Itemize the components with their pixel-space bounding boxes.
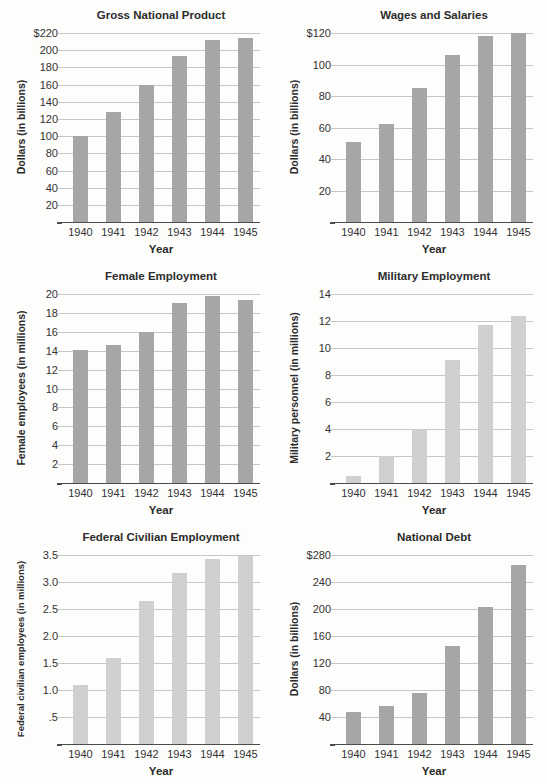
y-tick-label: 240 xyxy=(313,576,331,589)
gridline xyxy=(331,690,533,691)
chart-gross-national-product: Gross National Product Dollars (in billi… xyxy=(0,0,273,261)
gridline xyxy=(58,102,260,103)
gridline xyxy=(331,402,533,403)
gridline xyxy=(58,188,260,189)
y-tick-label: 60 xyxy=(319,122,331,135)
bar-1943 xyxy=(445,55,460,222)
bar-1941 xyxy=(379,456,394,483)
x-tick-label: 1945 xyxy=(226,487,266,499)
gridline xyxy=(58,464,260,465)
y-tick-label: 120 xyxy=(313,657,331,670)
x-axis-ticks: 194019411942194319441945 xyxy=(335,226,533,240)
bar-1940 xyxy=(73,685,88,744)
bar-1943 xyxy=(172,303,187,483)
y-axis-ticks: 1412108642 xyxy=(283,294,331,483)
x-tick-label: 1945 xyxy=(499,487,539,499)
x-axis-ticks: 194019411942194319441945 xyxy=(335,748,533,762)
gridline xyxy=(58,67,260,68)
plot-area xyxy=(62,294,260,484)
bar-1941 xyxy=(379,124,394,222)
bar-1945 xyxy=(511,316,526,483)
gridline xyxy=(331,321,533,322)
gridline xyxy=(58,294,260,295)
bar-1941 xyxy=(106,112,121,222)
bar-1940 xyxy=(346,712,361,744)
gridline xyxy=(331,375,533,376)
y-tick-label: 3.5 xyxy=(43,549,58,562)
y-tick-label: 160 xyxy=(313,630,331,643)
chart-title: Wages and Salaries xyxy=(335,9,533,21)
gridline xyxy=(58,609,260,610)
gridline xyxy=(58,582,260,583)
x-axis-label: Year xyxy=(335,243,533,255)
gridline xyxy=(58,370,260,371)
y-tick-label: 160 xyxy=(40,79,58,92)
bar-1940 xyxy=(346,142,361,222)
bar-1944 xyxy=(205,296,220,483)
y-axis-ticks: $22020018016014012010080604020 xyxy=(10,33,58,222)
bar-1942 xyxy=(412,88,427,222)
gridline xyxy=(58,389,260,390)
gridline xyxy=(58,50,260,51)
y-tick-label: 18 xyxy=(46,307,58,320)
gridline xyxy=(331,191,533,192)
y-axis-ticks: 3.53.02.52.01.51.0.5 xyxy=(10,555,58,744)
chart-title: Female Employment xyxy=(62,270,260,282)
gridline xyxy=(58,136,260,137)
scanned-chart-page: Gross National Product Dollars (in billi… xyxy=(0,0,547,784)
y-tick-label: 14 xyxy=(319,288,331,301)
bar-1942 xyxy=(139,601,154,744)
gridline xyxy=(331,636,533,637)
gridline xyxy=(331,159,533,160)
y-tick-label: $220 xyxy=(34,27,58,40)
plot-area xyxy=(62,33,260,223)
gridline xyxy=(331,65,533,66)
y-tick-label: 80 xyxy=(319,90,331,103)
chart-title: National Debt xyxy=(335,531,533,543)
bar-1944 xyxy=(478,607,493,744)
y-tick-label: 180 xyxy=(40,61,58,74)
gridline xyxy=(58,205,260,206)
gridline xyxy=(58,351,260,352)
y-tick-label: 10 xyxy=(46,383,58,396)
bar-1944 xyxy=(205,40,220,222)
bar-1943 xyxy=(172,573,187,744)
x-axis-label: Year xyxy=(335,504,533,516)
gridline xyxy=(58,636,260,637)
x-axis-ticks: 194019411942194319441945 xyxy=(62,226,260,240)
x-tick-label: 1945 xyxy=(499,748,539,760)
y-tick-label: 120 xyxy=(40,113,58,126)
y-tick-label: 16 xyxy=(46,326,58,339)
bar-1945 xyxy=(511,565,526,744)
x-axis-label: Year xyxy=(62,504,260,516)
y-tick-label: 140 xyxy=(40,96,58,109)
y-tick-label: 12 xyxy=(319,315,331,328)
y-tick-label: 3.0 xyxy=(43,576,58,589)
x-axis-label: Year xyxy=(62,765,260,777)
bar-1945 xyxy=(238,556,253,744)
y-tick-label: 20 xyxy=(46,288,58,301)
y-tick-label: $280 xyxy=(307,549,331,562)
chart-title: Military Employment xyxy=(335,270,533,282)
gridline xyxy=(331,456,533,457)
x-tick-label: 1945 xyxy=(226,226,266,238)
bar-1944 xyxy=(478,36,493,222)
bar-1942 xyxy=(412,429,427,483)
gridline xyxy=(58,313,260,314)
plot-area xyxy=(335,33,533,223)
y-tick-label: 100 xyxy=(40,130,58,143)
gridline xyxy=(331,429,533,430)
x-axis-label: Year xyxy=(62,243,260,255)
bar-1943 xyxy=(445,360,460,483)
gridline xyxy=(58,663,260,664)
y-tick-label: 1.5 xyxy=(43,657,58,670)
y-tick-label: 10 xyxy=(319,342,331,355)
gridline xyxy=(331,609,533,610)
bar-1945 xyxy=(238,300,253,483)
bar-1940 xyxy=(73,136,88,222)
chart-military-employment: Military Employment Military personnel (… xyxy=(273,261,547,522)
y-tick-label: 2.0 xyxy=(43,630,58,643)
chart-title: Gross National Product xyxy=(62,9,260,21)
gridline xyxy=(58,445,260,446)
x-tick-label: 1945 xyxy=(226,748,266,760)
